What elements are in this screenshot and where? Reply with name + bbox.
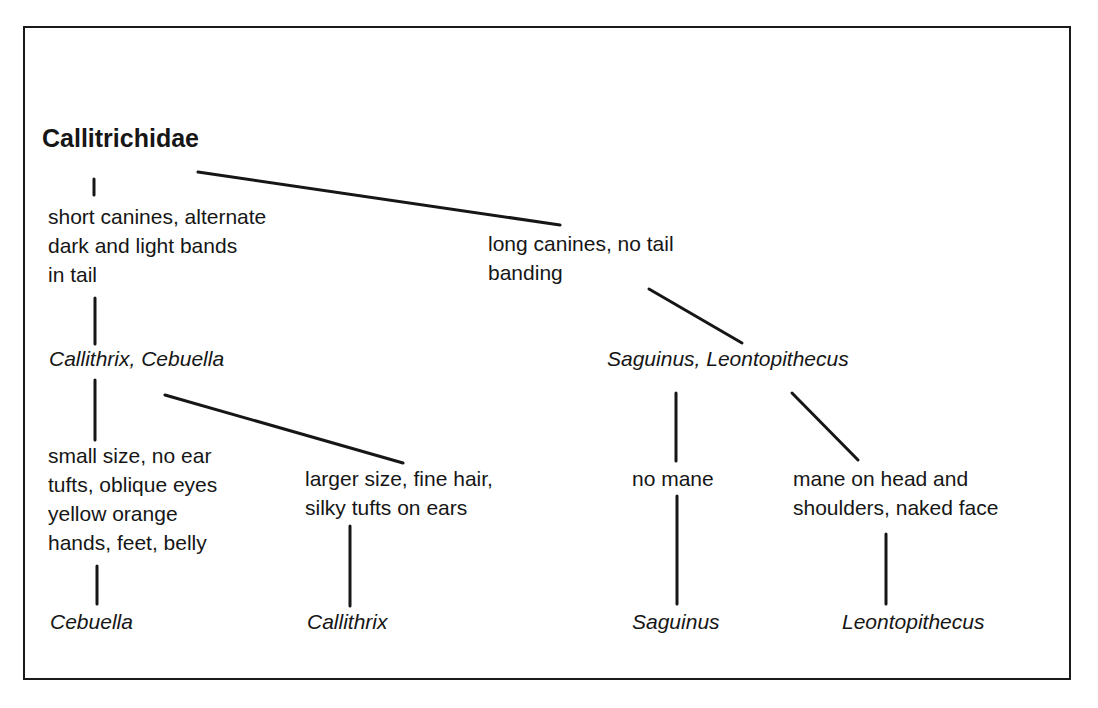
node-saguinus-leontopithecus: Saguinus, Leontopithecus <box>607 344 849 373</box>
node-mane: mane on head and shoulders, naked face <box>793 464 998 522</box>
node-callithrix-cebuella: Callithrix, Cebuella <box>49 344 224 373</box>
node-callithrix: Callithrix <box>307 607 388 636</box>
node-larger-size: larger size, fine hair, silky tufts on e… <box>305 464 493 522</box>
node-saguinus: Saguinus <box>632 607 720 636</box>
node-long-canines: long canines, no tail banding <box>488 229 674 287</box>
edge-saguinus-leontopithecus-mane <box>792 393 858 460</box>
edge-long-canines-saguinus-leontopithecus <box>649 289 742 343</box>
node-no-mane: no mane <box>632 464 714 493</box>
node-short-canines: short canines, alternate dark and light … <box>48 202 266 289</box>
node-cebuella: Cebuella <box>50 607 133 636</box>
node-leontopithecus: Leontopithecus <box>842 607 984 636</box>
node-callitrichidae: Callitrichidae <box>42 123 199 153</box>
node-small-size: small size, no ear tufts, oblique eyes y… <box>48 441 217 557</box>
